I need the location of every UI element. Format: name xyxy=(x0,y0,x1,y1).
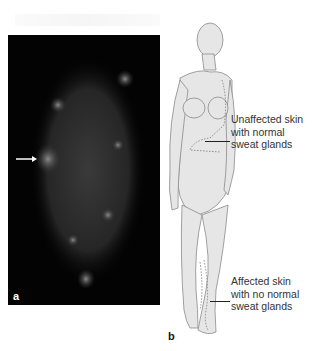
faint-bleedthrough-text xyxy=(15,14,160,26)
panel-b-label: b xyxy=(168,330,175,342)
annotation-affected-skin: Affected skin with no normal sweat gland… xyxy=(231,275,299,313)
panel-b-body-illustration xyxy=(150,10,240,340)
leader-line-unaffected xyxy=(205,141,230,142)
annotation-unaffected-skin: Unaffected skin with normal sweat glands xyxy=(231,113,303,151)
leader-line-affected xyxy=(210,301,230,302)
panel-a-scan-image xyxy=(8,35,160,305)
scan-glow-graphic xyxy=(8,35,160,305)
panel-a-label: a xyxy=(13,290,19,302)
